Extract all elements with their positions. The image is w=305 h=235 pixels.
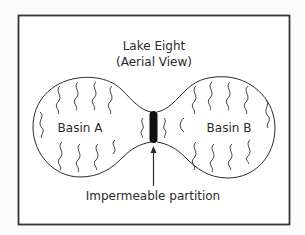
basin-b-label: Basin B — [207, 121, 252, 135]
title-line-2: (Aerial View) — [116, 55, 192, 69]
title-line-1: Lake Eight — [123, 39, 186, 53]
lake-eight-diagram: Lake Eight (Aerial View) Basin A Basin B — [0, 0, 305, 235]
impermeable-partition — [150, 111, 158, 143]
basin-a-label: Basin A — [58, 121, 104, 135]
partition-label: Impermeable partition — [86, 189, 220, 203]
